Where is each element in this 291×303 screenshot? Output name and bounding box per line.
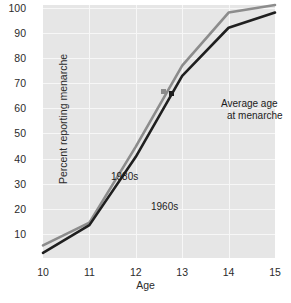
- annotation-line-1: Average age: [221, 98, 278, 109]
- annotation-line-2: at menarche: [221, 110, 283, 122]
- x-tick-label: 10: [28, 267, 58, 278]
- y-tick-label: 20: [0, 204, 26, 214]
- series-lines: [43, 5, 275, 258]
- average-age-marker-1980s: [161, 89, 166, 94]
- y-tick-label: 80: [0, 53, 26, 63]
- y-tick-label: 40: [0, 154, 26, 164]
- x-tick-label: 11: [74, 267, 104, 278]
- series-line-1960s: [43, 13, 275, 253]
- x-tick-label: 12: [121, 267, 151, 278]
- x-tick-label: 15: [260, 267, 290, 278]
- x-tick-label: 13: [167, 267, 197, 278]
- y-tick-label: 90: [0, 28, 26, 38]
- y-tick-label: 30: [0, 179, 26, 189]
- average-age-marker-1960s: [169, 91, 174, 96]
- annotation-average-age: Average age at menarche: [221, 98, 283, 122]
- y-tick-label: 100: [0, 3, 26, 13]
- y-axis-title: Percent reporting menarche: [57, 44, 69, 194]
- y-tick-label: 50: [0, 128, 26, 138]
- y-tick-label: 10: [0, 229, 26, 239]
- y-tick-label: 60: [0, 103, 26, 113]
- y-tick-label: 70: [0, 78, 26, 88]
- x-tick-label: 14: [214, 267, 244, 278]
- x-axis-title: Age: [0, 279, 291, 291]
- chart-figure: 1980s 1960s Average age at menarche 100 …: [0, 0, 291, 303]
- series-label-1960s: 1960s: [151, 201, 178, 212]
- series-label-1980s: 1980s: [111, 171, 138, 182]
- plot-area: 1980s 1960s Average age at menarche 100 …: [43, 5, 275, 258]
